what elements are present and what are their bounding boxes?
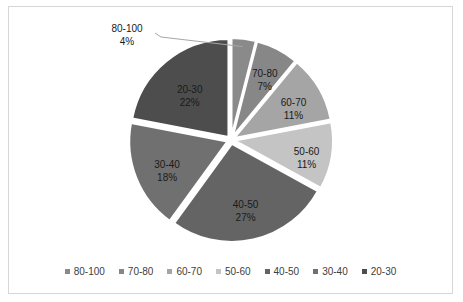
legend-swatch-icon-80-100 [65,269,70,274]
data-label-80-100: 80-1004% [111,23,143,47]
legend-swatch-icon-20-30 [362,269,367,274]
legend-item-70-80[interactable]: 70-80 [119,266,154,277]
legend-label: 40-50 [274,266,300,277]
chart-frame: 80-1004%70-807%60-7011%50-6011%40-5027%3… [8,6,453,294]
legend-swatch-icon-70-80 [119,269,124,274]
legend-item-40-50[interactable]: 40-50 [265,266,300,277]
chart-legend: 80-10070-8060-7050-6040-5030-4020-30 [9,266,452,277]
legend-swatch-icon-30-40 [313,269,318,274]
legend-item-80-100[interactable]: 80-100 [65,266,105,277]
legend-label: 30-40 [322,266,348,277]
pie-slices-group [129,38,333,242]
legend-swatch-icon-60-70 [167,269,172,274]
legend-swatch-icon-40-50 [265,269,270,274]
legend-item-50-60[interactable]: 50-60 [216,266,251,277]
legend-label: 80-100 [74,266,105,277]
legend-label: 60-70 [176,266,202,277]
legend-label: 50-60 [225,266,251,277]
legend-swatch-icon-50-60 [216,269,221,274]
legend-label: 70-80 [128,266,154,277]
legend-item-30-40[interactable]: 30-40 [313,266,348,277]
pie-chart-plot-area: 80-1004%70-807%60-7011%50-6011%40-5027%3… [9,7,454,295]
legend-item-60-70[interactable]: 60-70 [167,266,202,277]
legend-item-20-30[interactable]: 20-30 [362,266,397,277]
legend-label: 20-30 [371,266,397,277]
pie-chart-svg: 80-1004%70-807%60-7011%50-6011%40-5027%3… [9,7,454,295]
